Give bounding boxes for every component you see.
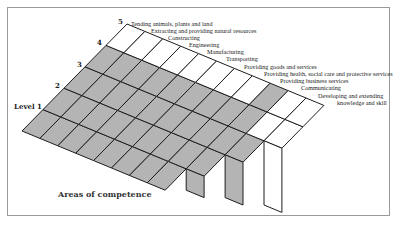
area-label-9: Providing business services xyxy=(280,77,348,84)
area-label-3: Constructing xyxy=(168,34,200,41)
area-label-2: Extracting and providing natural resourc… xyxy=(151,27,257,34)
area-label-6: Transporting xyxy=(226,55,258,62)
area-label-11: Developing and extending xyxy=(318,92,383,99)
area-label-7: Providing goods and services xyxy=(244,63,317,70)
axis-title: Areas of competence xyxy=(58,189,151,199)
area-label-10: Communicating xyxy=(301,84,341,91)
area-label-5: Manufacturing xyxy=(207,48,244,55)
area-label-1: Tending animals, plants and land xyxy=(131,20,213,27)
side-face xyxy=(225,155,243,205)
level-1-label: Level 1 xyxy=(14,102,42,111)
level-4-label: 4 xyxy=(97,38,102,47)
level-3-label: 3 xyxy=(77,60,82,69)
side-face xyxy=(264,141,282,213)
level-2-label: 2 xyxy=(55,81,60,90)
level-5-label: 5 xyxy=(118,17,123,26)
area-label-11b: knowledge and skill xyxy=(337,99,387,106)
area-label-8: Providing health, social care and protec… xyxy=(264,70,393,77)
area-label-4: Engineering xyxy=(189,41,219,48)
